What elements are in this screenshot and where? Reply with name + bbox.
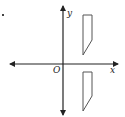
origin-label: O [53, 65, 61, 75]
dot-mark [2, 14, 4, 16]
y-axis-label: y [66, 8, 73, 18]
x-axis-label: x [110, 65, 115, 75]
coordinate-figure: y x O [0, 0, 125, 117]
upper-quadrilateral [83, 15, 92, 55]
lower-quadrilateral [83, 72, 92, 111]
